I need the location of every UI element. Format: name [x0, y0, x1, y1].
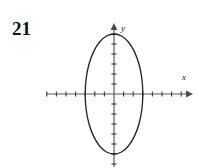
coordinate-plane-graph: x y [0, 0, 199, 168]
y-axis-label: y [120, 23, 125, 33]
x-axis-arrow-icon [186, 91, 193, 98]
y-axis-arrow-icon [111, 23, 118, 30]
figure-container: 21 x y [0, 0, 199, 168]
x-axis-label: x [181, 72, 186, 82]
